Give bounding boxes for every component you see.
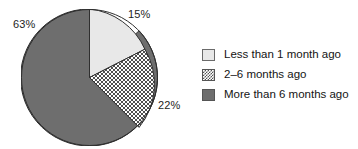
legend-item-label: More than 6 months ago <box>224 89 349 101</box>
pie-chart-graphic <box>21 9 158 146</box>
legend-item-more-than-6-months: More than 6 months ago <box>202 85 354 104</box>
legend-item-less-than-1-month: Less than 1 month ago <box>202 45 354 64</box>
legend-item-label: 2–6 months ago <box>224 69 306 81</box>
checkerboard-swatch-icon <box>202 69 215 81</box>
legend: Less than 1 month ago 2–6 months ago Mor… <box>202 45 354 105</box>
dark-gray-swatch-icon <box>202 89 215 101</box>
pie-data-label-15-percent: 15% <box>128 9 150 20</box>
legend-item-label: Less than 1 month ago <box>224 49 341 61</box>
pie-svg <box>21 9 158 146</box>
legend-item-2-to-6-months: 2–6 months ago <box>202 65 354 84</box>
pie-chart-figure: 15% 22% 63% Less than 1 month ago 2–6 mo… <box>0 0 358 149</box>
pie-data-label-22-percent: 22% <box>158 100 180 111</box>
pie-data-label-63-percent: 63% <box>13 19 35 30</box>
light-gray-swatch-icon <box>202 49 215 61</box>
